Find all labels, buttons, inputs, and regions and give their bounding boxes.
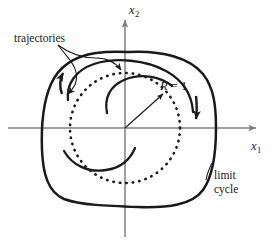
limit-cycle-figure: trajectories R = 1 limit cycle x2 x1 — [0, 0, 274, 247]
x-axis-label-base: x — [251, 139, 257, 153]
y-axis-label-base: x — [129, 3, 135, 17]
radius-operator: = — [168, 79, 181, 93]
radius-arrow-icon — [125, 94, 163, 128]
limit-cycle-curve — [42, 52, 216, 207]
radius-symbol: R — [160, 79, 168, 93]
limit-cycle-label-line1: limit — [214, 169, 238, 183]
right-flow-arrow-icon — [196, 96, 197, 119]
limit-cycle-label-line2: cycle — [214, 183, 238, 197]
limit-cycle-label: limit cycle — [214, 169, 238, 196]
x-axis-label-subscript: 1 — [257, 145, 261, 155]
y-axis-label: x2 — [129, 3, 139, 18]
left-flow-arrow-icon — [60, 73, 63, 94]
y-axis-label-subscript: 2 — [135, 9, 139, 19]
trajectories-label: trajectories — [14, 32, 65, 46]
limit-cycle-path — [42, 52, 216, 207]
radius-value: 1 — [181, 79, 187, 93]
radius-arrow-group — [125, 94, 163, 128]
x-axis-label: x1 — [251, 139, 261, 154]
radius-label: R = 1 — [160, 79, 187, 94]
